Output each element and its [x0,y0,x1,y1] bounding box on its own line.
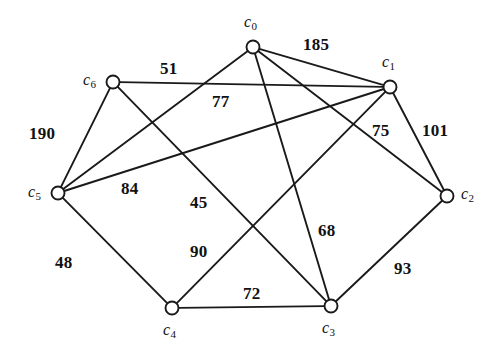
edge-weight-c0-c5: 45 [190,194,207,211]
graph-figure: 18577684551190847548729093101c0c1c2c3c4c… [0,0,499,356]
edge-weight-c1-c2: 101 [422,122,448,139]
graph-edge-c6-c3 [118,87,327,302]
node-label-subscript-c1: 1 [389,60,395,72]
node-label-subscript-c0: 0 [251,20,257,32]
graph-edge-c6-c1 [119,82,383,87]
graph-edge-c4-c3 [178,306,324,308]
graph-node-c3 [325,300,338,313]
node-label-c1: c1 [382,54,395,72]
edge-weight-c6-c3: 84 [121,180,138,197]
edge-weight-c5-c1: 75 [372,122,389,139]
node-label-subscript-c3: 3 [329,326,335,338]
graph-node-c5 [52,187,65,200]
graph-edge-c0-c3 [255,53,329,300]
graph-edge-c4-c1 [177,92,386,304]
edge-weight-c3-c2: 93 [394,260,411,277]
graph-node-c2 [441,190,454,203]
edge-weight-c5-c4: 48 [55,254,72,271]
node-label-subscript-c6: 6 [90,78,96,90]
node-label-subscript-c5: 5 [35,190,41,202]
graph-node-c6 [107,76,120,89]
edge-weight-c6-c5: 190 [29,125,55,142]
node-label-c5: c5 [28,184,41,202]
graph-edge-c3-c2 [336,200,443,301]
node-label-c4: c4 [163,322,176,340]
edge-weight-c4-c3: 72 [243,285,260,302]
graph-node-c1 [384,81,397,94]
graph-edge-c5-c4 [63,198,168,304]
node-label-subscript-c4: 4 [170,328,176,340]
graph-node-c4 [166,302,179,315]
node-label-c3: c3 [322,320,335,338]
node-label-c0: c0 [244,14,257,32]
graph-edge-c1-c2 [393,93,444,190]
node-label-c2: c2 [461,186,474,204]
edge-weight-c4-c1: 90 [190,243,207,260]
edge-weight-c6-c1: 51 [160,60,177,77]
edge-weight-c0-c1: 185 [303,36,329,53]
edge-weight-c0-c3: 68 [318,222,335,239]
node-label-subscript-c2: 2 [468,192,474,204]
graph-edge-c0-c2 [258,51,442,192]
graph-node-c0 [247,41,260,54]
edge-weight-c0-c2: 77 [212,93,229,110]
node-label-c6: c6 [83,72,96,90]
